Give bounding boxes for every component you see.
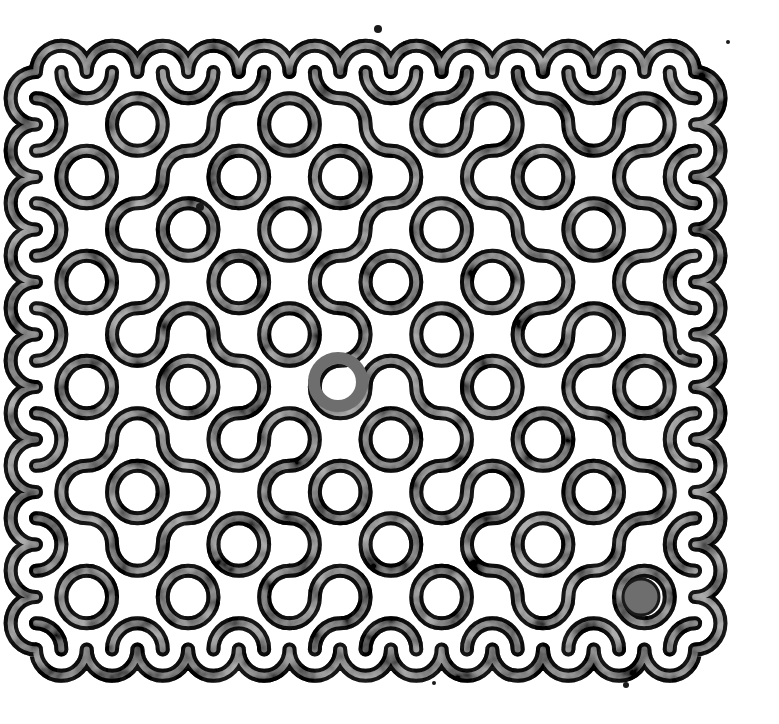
ink-speck [623,682,629,688]
ink-speck [196,203,204,211]
ink-speck [677,349,683,355]
filled-dot [623,579,659,615]
ink-speck [726,40,730,44]
truchet-pattern-artwork [0,0,779,724]
ink-speck [432,681,436,685]
ink-speck [374,25,382,33]
